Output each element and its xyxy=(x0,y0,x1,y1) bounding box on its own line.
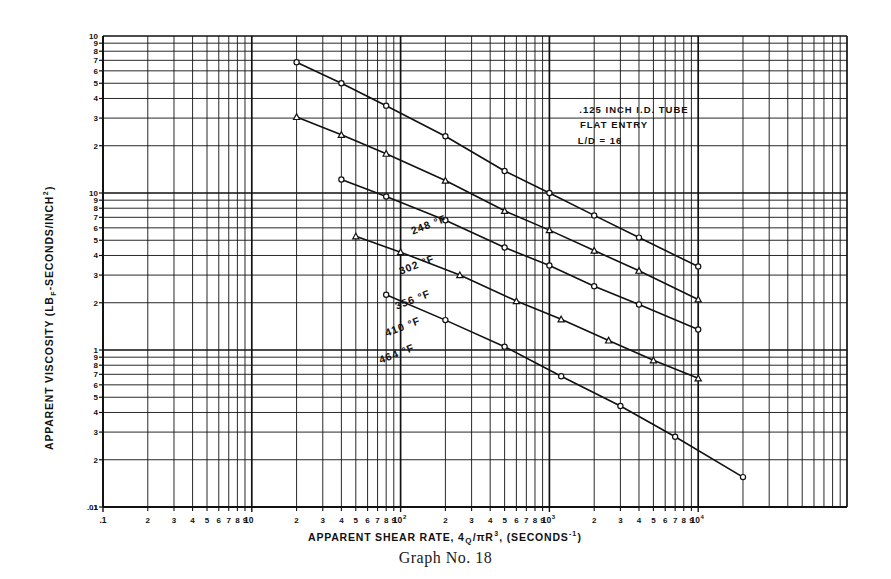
y-tick-label: 7 xyxy=(94,56,99,65)
x-tick-label-minor: 7 xyxy=(227,516,232,525)
data-point-marker xyxy=(338,132,344,138)
data-point-marker xyxy=(457,272,463,278)
data-point-marker xyxy=(695,375,701,381)
x-tick-label-exponent: 2 xyxy=(403,514,407,520)
x-tick-label-minor: 5 xyxy=(354,516,359,525)
y-tick-labels: .123456789123456789102345678910.01 xyxy=(87,32,103,512)
data-point-marker xyxy=(384,103,389,108)
data-point-marker xyxy=(383,151,389,157)
data-point-marker xyxy=(636,268,642,274)
y-axis-title-part: APPARENT VISCOSITY (LB xyxy=(43,296,55,450)
data-point-marker xyxy=(673,434,678,439)
y-tick-label-bottom: .01 xyxy=(87,503,99,512)
y-tick-label: 5 xyxy=(94,79,99,88)
y-tick-label: 6 xyxy=(94,381,99,390)
x-tick-labels: .123456789102345678910223456789103234567… xyxy=(99,507,704,525)
series-label-4: 464 °F xyxy=(377,341,416,365)
data-point-marker xyxy=(502,245,507,250)
data-point-marker xyxy=(696,327,701,332)
y-tick-label: 2 xyxy=(94,299,99,308)
data-series-group xyxy=(293,60,745,480)
x-axis-title-part: , (SECONDS xyxy=(499,531,568,543)
data-point-marker xyxy=(591,247,597,253)
data-point-marker xyxy=(443,134,448,139)
y-tick-label: 3 xyxy=(94,114,99,123)
series-labels: 248 °F302 °F356 °F410 °F464 °F xyxy=(377,212,448,365)
y-tick-label: 3 xyxy=(94,271,99,280)
y-tick-label: 4 xyxy=(94,94,99,103)
data-point-marker xyxy=(547,190,552,195)
x-tick-label-minor: 8 xyxy=(682,516,687,525)
y-axis-title-part: ) xyxy=(43,186,55,190)
y-tick-label: 3 xyxy=(94,428,99,437)
data-point-marker xyxy=(696,264,701,269)
x-tick-label-minor: 5 xyxy=(651,516,656,525)
y-axis-title-part: F xyxy=(50,291,57,296)
figure-caption: Graph No. 18 xyxy=(0,549,891,567)
x-tick-label-minor: 8 xyxy=(533,516,538,525)
data-point-marker xyxy=(339,177,344,182)
y-tick-label: 4 xyxy=(94,251,99,260)
x-tick-label-minor: 3 xyxy=(172,516,177,525)
data-point-marker xyxy=(618,403,623,408)
x-tick-label-minor: 8 xyxy=(235,516,240,525)
x-tick-label-minor: 4 xyxy=(637,516,642,525)
y-tick-label: 10 xyxy=(89,189,98,198)
x-tick-label-minor: 2 xyxy=(443,516,448,525)
data-point-marker xyxy=(502,344,507,349)
x-tick-label-minor: 6 xyxy=(663,516,668,525)
log-log-plot: .123456789123456789102345678910.01.12345… xyxy=(0,0,891,549)
y-tick-label: 6 xyxy=(94,224,99,233)
y-tick-label: 1 xyxy=(94,346,99,355)
series-label-2: 356 °F xyxy=(393,287,432,311)
x-tick-label-minor: 5 xyxy=(502,516,507,525)
y-axis-title-part: 2 xyxy=(42,191,49,196)
y-tick-label: 2 xyxy=(94,142,99,151)
data-point-marker xyxy=(443,318,448,323)
data-point-marker xyxy=(559,374,564,379)
y-tick-label: 10 xyxy=(89,32,98,41)
data-point-marker xyxy=(339,81,344,86)
x-tick-label-minor: 3 xyxy=(321,516,326,525)
x-tick-label-minor: 7 xyxy=(673,516,678,525)
y-tick-label: 8 xyxy=(94,361,99,370)
x-tick-label-exponent: 4 xyxy=(701,514,705,520)
x-axis-title-part: APPARENT SHEAR RATE, 4 xyxy=(308,531,465,543)
chart-figure: .123456789123456789102345678910.01.12345… xyxy=(0,0,891,579)
x-axis-title-part: ) xyxy=(577,531,581,543)
data-point-marker xyxy=(695,296,701,302)
x-tick-label-minor: 2 xyxy=(294,516,299,525)
data-point-marker xyxy=(293,114,299,120)
annotation-line-1: .125 INCH I.D. TUBE xyxy=(579,104,688,115)
y-tick-label: 5 xyxy=(94,236,99,245)
x-tick-label-minor: 2 xyxy=(592,516,597,525)
x-tick-label-minor: 4 xyxy=(339,516,344,525)
data-point-marker xyxy=(384,292,389,297)
data-point-marker xyxy=(398,249,404,255)
x-tick-label-decade: 10 xyxy=(393,515,403,525)
y-tick-label: 5 xyxy=(94,393,99,402)
y-tick-label: 8 xyxy=(94,47,99,56)
data-point-marker xyxy=(592,213,597,218)
x-tick-label-minor: 3 xyxy=(469,516,474,525)
x-axis-title-part: /πR xyxy=(473,531,494,543)
data-point-marker xyxy=(650,357,656,363)
data-point-marker xyxy=(353,233,359,239)
x-tick-label-decade: 10 xyxy=(244,515,254,525)
data-point-marker xyxy=(636,235,641,240)
x-tick-label-decade: .1 xyxy=(99,515,106,525)
y-tick-label: 7 xyxy=(94,213,99,222)
x-tick-label-minor: 6 xyxy=(217,516,222,525)
series-label-0: 248 °F xyxy=(409,212,448,236)
x-axis-title-part: -1 xyxy=(569,530,577,537)
x-tick-label-minor: 2 xyxy=(146,516,151,525)
data-point-marker xyxy=(592,284,597,289)
x-axis-title-part: Q xyxy=(465,536,472,545)
x-tick-label-minor: 8 xyxy=(384,516,389,525)
data-point-marker xyxy=(513,298,519,304)
data-point-marker xyxy=(606,337,612,343)
x-tick-label-minor: 3 xyxy=(618,516,623,525)
annotation-line-2: FLAT ENTRY xyxy=(580,119,648,130)
x-tick-label-decade: 10 xyxy=(542,515,552,525)
x-tick-label-exponent: 3 xyxy=(552,514,556,520)
